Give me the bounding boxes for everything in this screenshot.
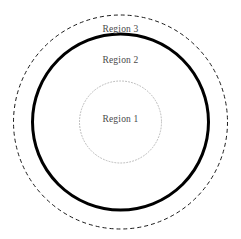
- region-3-label: Region 3: [0, 24, 241, 34]
- region-1-label: Region 1: [0, 114, 241, 124]
- region-2-label: Region 2: [0, 55, 241, 65]
- concentric-regions-diagram: Region 3 Region 2 Region 1: [0, 0, 241, 239]
